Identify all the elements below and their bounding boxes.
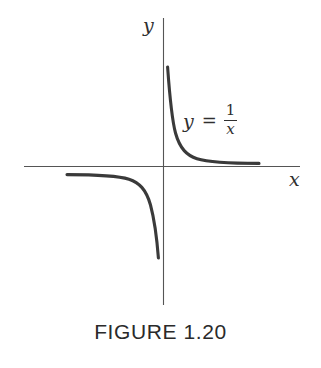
x-axis-label: x: [289, 170, 300, 189]
figure-container: y x y = 1 x FIGURE 1.20: [0, 0, 321, 368]
hyperbola-lower-branch: [67, 175, 158, 258]
y-axis-label: y: [143, 16, 154, 35]
equation-lhs: y: [183, 112, 194, 131]
equation-equals-sign: =: [202, 112, 217, 130]
plot-canvas: [0, 0, 321, 368]
figure-caption: FIGURE 1.20: [0, 320, 321, 344]
equation-fraction: 1 x: [224, 103, 238, 138]
fraction-numerator: 1: [224, 103, 238, 120]
equation-annotation: y = 1 x: [183, 104, 237, 139]
fraction-denominator: x: [224, 121, 236, 138]
